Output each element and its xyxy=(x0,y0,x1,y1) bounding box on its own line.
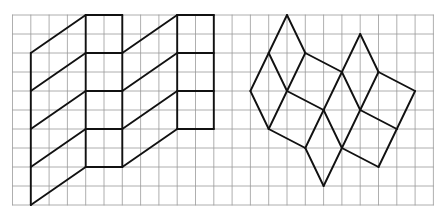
grid-diagram xyxy=(0,0,440,218)
right-rhombus-tiling-figure xyxy=(250,15,415,186)
grid-diagram-svg xyxy=(0,0,440,218)
square-grid xyxy=(13,15,434,205)
